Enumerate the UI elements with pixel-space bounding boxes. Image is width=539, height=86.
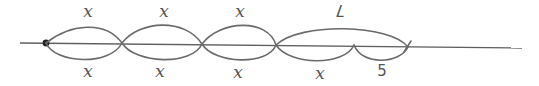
bottom-arc-1 [46, 43, 122, 60]
bottom-arc-3 [202, 44, 276, 60]
bottom-label-1: x [83, 63, 93, 80]
top-arc-1 [46, 27, 122, 43]
number-line [20, 43, 522, 48]
top-arc-2 [122, 25, 202, 44]
bottom-label-2: x [155, 63, 165, 80]
top-arc-4 [276, 29, 408, 47]
bottom-arc-2 [122, 43, 202, 60]
top-label-1: x [83, 3, 93, 20]
bottom-label-5: 5 [377, 64, 387, 79]
bottom-label-3: x [233, 64, 243, 81]
top-label-2: x [159, 3, 169, 20]
number-line-diagram [0, 0, 539, 86]
bottom-arc-4 [276, 45, 354, 61]
bottom-label-4: x [315, 65, 325, 82]
top-arc-3 [202, 25, 276, 45]
top-label-4: 7 [335, 2, 345, 17]
top-label-3: x [235, 3, 245, 20]
